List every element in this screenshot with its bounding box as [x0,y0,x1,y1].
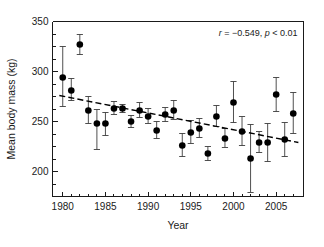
data-point-marker [145,113,152,120]
x-tick-label: 2000 [222,201,245,212]
y-tick-label: 250 [32,116,49,127]
regression-trendline [59,96,298,143]
data-point-marker [179,142,186,149]
data-point-marker [281,136,288,143]
y-tick-label: 350 [32,16,49,27]
data-point-marker [196,125,203,132]
data-series-group [59,35,296,193]
data-point-marker [222,135,229,142]
data-point-marker [85,107,92,114]
data-point-marker [102,120,109,127]
data-point-marker [59,74,66,81]
x-tick-label: 1990 [137,201,160,212]
figure-container: 200250300350198019851990199520002005 Mea… [0,0,324,247]
data-point-marker [205,150,212,157]
data-point-marker [170,107,177,114]
y-tick-label: 300 [32,66,49,77]
data-point-marker [153,127,160,134]
data-point-marker [188,129,195,136]
trendline-group [59,96,298,143]
data-point-marker [213,113,220,120]
data-point-marker [94,120,101,127]
data-point-marker [256,139,263,146]
scatter-plot: 200250300350198019851990199520002005 Mea… [0,0,324,247]
data-point-marker [77,41,84,48]
x-tick-label: 1980 [52,201,75,212]
correlation-annotation: r = −0.549, p < 0.01 [219,28,298,38]
data-point-marker [247,155,254,162]
data-point-marker [162,111,169,118]
y-axis-title: Mean body mass (kg) [5,59,17,160]
data-point-marker [68,87,75,94]
x-tick-label: 2005 [265,201,288,212]
data-point-marker [273,91,280,98]
data-point-marker [290,110,297,117]
data-point-marker [264,139,271,146]
y-tick-label: 200 [32,166,49,177]
x-tick-label: 1985 [94,201,117,212]
x-tick-label: 1995 [180,201,203,212]
x-axis-title: Year [167,219,189,231]
data-point-marker [128,118,135,125]
data-point-group [94,110,100,150]
data-point-marker [230,99,237,106]
